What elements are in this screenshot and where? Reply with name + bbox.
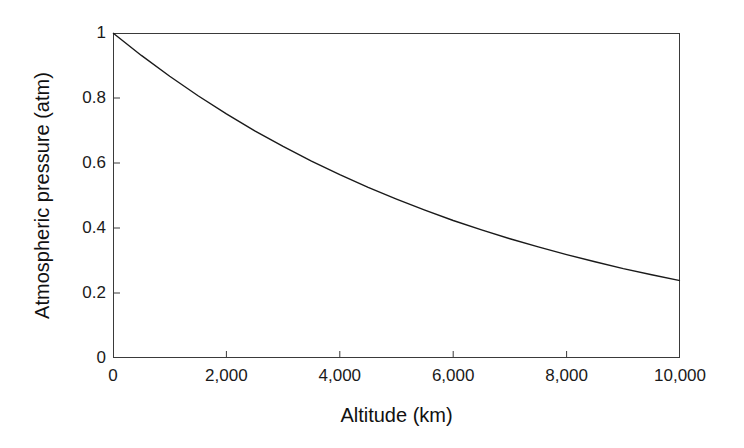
x-axis-title: Altitude (km)	[113, 404, 680, 427]
x-tick-label: 4,000	[285, 366, 395, 386]
x-axis-tick-labels: 02,0004,0006,0008,00010,000	[113, 366, 680, 392]
y-tick-label: 0.8	[46, 88, 106, 108]
y-tick-label: 0.6	[46, 153, 106, 173]
x-tick-label: 6,000	[398, 366, 508, 386]
y-axis-tick-labels: 00.20.40.60.81	[38, 33, 106, 358]
y-tick-label: 0.4	[46, 218, 106, 238]
plot-area	[113, 33, 680, 358]
y-tick-label: 0.2	[46, 283, 106, 303]
x-tick-label: 2,000	[171, 366, 281, 386]
x-tick-label: 10,000	[625, 366, 735, 386]
y-tick-label: 0	[46, 348, 106, 368]
data-series-line	[113, 33, 680, 281]
y-tick-label: 1	[46, 23, 106, 43]
tick-marks	[113, 98, 567, 358]
x-tick-label: 0	[58, 366, 168, 386]
x-tick-label: 8,000	[512, 366, 622, 386]
chart-figure: Atmospheric pressure (atm) 00.20.40.60.8…	[0, 0, 744, 448]
